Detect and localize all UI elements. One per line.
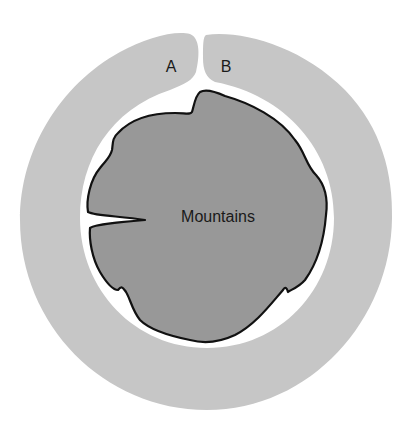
island-diagram: A B Mountains bbox=[0, 0, 411, 429]
region-label-b: B bbox=[221, 58, 232, 75]
mountains-label: Mountains bbox=[181, 208, 255, 225]
region-label-a: A bbox=[166, 58, 177, 75]
